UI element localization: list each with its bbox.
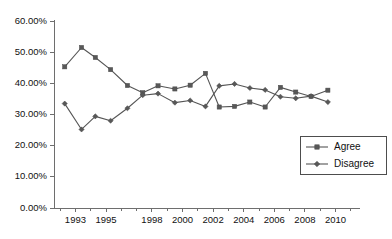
x-tick-label: 2006 [264, 214, 285, 225]
y-tick-label: 50.00% [15, 46, 48, 57]
legend-marker-agree [315, 145, 319, 149]
data-point-agree [63, 65, 67, 69]
data-point-agree [326, 88, 330, 92]
data-point-agree [203, 71, 207, 75]
data-point-agree [217, 105, 221, 109]
y-tick-label: 40.00% [15, 77, 48, 88]
data-point-disagree [232, 81, 237, 86]
data-point-agree [248, 100, 252, 104]
x-tick-label: 1993 [65, 214, 86, 225]
x-tick-label: 2010 [325, 214, 346, 225]
y-tick-label: 60.00% [15, 15, 48, 26]
data-point-agree [278, 85, 282, 89]
x-tick-label: 2004 [233, 214, 254, 225]
data-point-agree [109, 68, 113, 72]
data-point-agree [263, 105, 267, 109]
series-layer [62, 45, 330, 132]
chart-canvas: 0.00%10.00%20.00%30.00%40.00%50.00%60.00… [0, 0, 392, 239]
x-tick-label: 2008 [294, 214, 315, 225]
data-point-agree [173, 87, 177, 91]
y-axis: 0.00%10.00%20.00%30.00%40.00%50.00%60.00… [15, 15, 54, 213]
x-tick-label: 1998 [141, 214, 162, 225]
data-point-agree [93, 55, 97, 59]
data-point-disagree [188, 98, 193, 103]
legend-label-disagree: Disagree [334, 158, 374, 169]
data-point-disagree [155, 91, 160, 96]
y-tick-label: 10.00% [15, 170, 48, 181]
chart-legend: AgreeDisagree [300, 136, 386, 174]
x-tick-label: 2000 [172, 214, 193, 225]
data-point-disagree [278, 94, 283, 99]
data-point-agree [294, 90, 298, 94]
data-point-disagree [325, 99, 330, 104]
data-point-disagree [293, 96, 298, 101]
x-axis: 199319951998200020022004200620082010 [54, 208, 360, 225]
x-tick-label: 2002 [203, 214, 224, 225]
data-point-agree [232, 104, 236, 108]
y-tick-label: 30.00% [15, 108, 48, 119]
y-tick-label: 0.00% [20, 202, 47, 213]
data-point-agree [79, 45, 83, 49]
data-point-agree [156, 84, 160, 88]
line-chart: 0.00%10.00%20.00%30.00%40.00%50.00%60.00… [0, 0, 392, 239]
data-point-disagree [263, 87, 268, 92]
data-point-agree [125, 83, 129, 87]
series-line-disagree [65, 84, 328, 130]
data-point-disagree [172, 100, 177, 105]
x-tick-label: 1995 [95, 214, 116, 225]
data-point-agree [188, 83, 192, 87]
legend-label-agree: Agree [334, 141, 361, 152]
data-point-disagree [247, 85, 252, 90]
y-tick-label: 20.00% [15, 139, 48, 150]
